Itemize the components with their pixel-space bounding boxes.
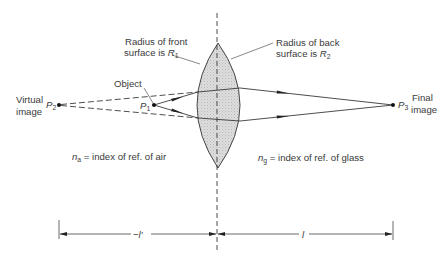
arrowhead-incident-upper: [171, 97, 183, 102]
biconvex-lens: [197, 43, 240, 168]
p2-label: P2: [46, 99, 56, 111]
image-distance-label: l: [302, 229, 305, 240]
p2-subscript: 2: [52, 104, 56, 111]
virtual-image-label-line2: image: [16, 106, 42, 117]
dimension-arrow-right-end: [385, 232, 393, 236]
front-radius-label-line2: surface is R1: [124, 47, 179, 59]
exit-ray-lower: [240, 105, 393, 121]
back-radius-symbol: R: [320, 48, 327, 59]
point-p1-dot: [152, 103, 156, 107]
dimension-arrow-left-center: [209, 232, 217, 236]
front-radius-text: surface is: [124, 47, 168, 58]
p1-subscript: 1: [146, 105, 150, 112]
back-radius-text: surface is: [276, 48, 320, 59]
back-radius-label-line2: surface is R2: [276, 48, 331, 60]
arrowhead-exit-upper: [277, 91, 289, 94]
exit-ray-upper: [240, 88, 393, 105]
object-label: Object: [114, 78, 142, 89]
leader-back-radius: [231, 43, 273, 59]
point-p2-dot: [57, 103, 61, 107]
diagram-canvas: Radius of front surface is R1 Radius of …: [0, 0, 446, 257]
p3-label: P3: [398, 99, 408, 111]
air-index-text: = index of ref. of air: [81, 151, 167, 162]
front-radius-subscript: 1: [175, 52, 179, 59]
glass-index-text: = index of ref. of glass: [267, 152, 364, 163]
point-p3-dot: [391, 103, 395, 107]
dimension-arrow-left-end: [60, 232, 68, 236]
thin-lens-diagram: Radius of front surface is R1 Radius of …: [0, 0, 446, 257]
glass-index-label: ng = index of ref. of glass: [258, 152, 364, 165]
back-radius-label-line1: Radius of back: [276, 37, 340, 48]
final-image-label-line2: image: [411, 104, 437, 115]
front-radius-symbol: R: [168, 47, 175, 58]
final-image-label-line1: Final: [412, 92, 433, 103]
p1-label: P1: [140, 100, 150, 112]
front-radius-label-line1: Radius of front: [125, 36, 188, 47]
p3-subscript: 3: [404, 104, 408, 111]
dimension-arrow-right-center: [218, 232, 226, 236]
back-radius-subscript: 2: [327, 53, 331, 60]
air-index-label: na = index of ref. of air: [72, 151, 167, 163]
arrowhead-incident-lower: [171, 108, 183, 113]
virtual-image-label-line1: Virtual: [16, 94, 43, 105]
object-distance-label: −l′: [133, 229, 144, 240]
